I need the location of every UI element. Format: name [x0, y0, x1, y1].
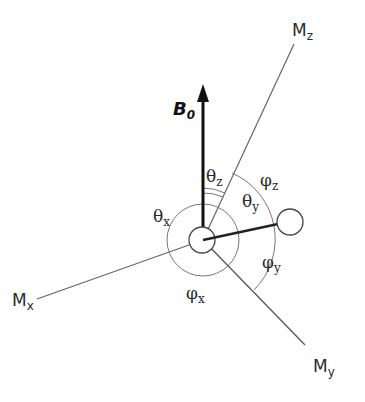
theta-y-symbol: θ: [242, 191, 252, 211]
b0-subscript: 0: [187, 108, 195, 122]
mx-label: Mx: [12, 292, 34, 312]
theta-x-subscript: x: [163, 215, 170, 229]
mz-subscript: z: [307, 29, 313, 43]
theta-z-symbol: θ: [206, 166, 216, 186]
my-subscript: y: [328, 365, 335, 379]
my-symbol: M: [313, 356, 328, 376]
phi-y-label: φy: [262, 254, 281, 274]
theta-z-label: θz: [206, 168, 223, 188]
diagram-canvas: B0 Mz Mx My θz φz θy θx φy φx: [0, 0, 365, 402]
mz-label: Mz: [292, 22, 313, 42]
b0-label: B0: [173, 100, 195, 121]
phi-x-label: φx: [186, 285, 205, 305]
theta-x-label: θx: [153, 208, 170, 228]
phi-x-subscript: x: [198, 292, 205, 306]
phi-z-symbol: φ: [260, 170, 272, 190]
phi-z-label: φz: [260, 172, 278, 192]
phi-z-subscript: z: [272, 179, 278, 193]
theta-y-label: θy: [242, 193, 259, 213]
theta-z-subscript: z: [216, 175, 222, 189]
diagram-graphics: [0, 0, 365, 402]
phi-y-symbol: φ: [262, 252, 274, 272]
theta-y-subscript: y: [252, 200, 259, 214]
theta-z-arc-inner: [203, 193, 223, 197]
theta-x-symbol: θ: [153, 206, 163, 226]
phi-y-subscript: y: [274, 261, 281, 275]
mx-subscript: x: [27, 299, 34, 313]
mz-symbol: M: [292, 20, 307, 40]
my-axis-line: [203, 240, 305, 345]
mx-axis-line: [37, 240, 203, 299]
moment-tip-circle: [277, 209, 303, 235]
origin-circle: [189, 227, 215, 253]
phi-x-symbol: φ: [186, 283, 198, 303]
b0-symbol: B: [173, 98, 187, 119]
b0-arrowhead-icon: [197, 84, 209, 102]
my-label: My: [313, 358, 335, 378]
mx-symbol: M: [12, 290, 27, 310]
